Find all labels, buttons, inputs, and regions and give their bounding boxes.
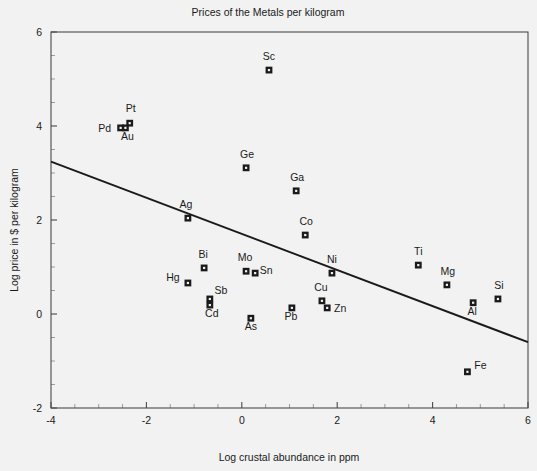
x-tick-label: 4 xyxy=(430,414,436,426)
data-point-label: Cd xyxy=(205,307,219,319)
data-point-label: Ti xyxy=(414,245,422,257)
chart-figure: Prices of the Metals per kilogram -4-202… xyxy=(0,0,537,471)
data-point-marker-center xyxy=(187,217,189,219)
x-axis-label: Log crustal abundance in ppm xyxy=(219,451,360,463)
data-point-label: Fe xyxy=(474,359,486,371)
data-point-marker-center xyxy=(187,282,189,284)
x-tick-label: 6 xyxy=(525,414,531,426)
data-point-marker-center xyxy=(446,284,448,286)
y-tick-label: 4 xyxy=(36,120,42,132)
y-tick-label: -2 xyxy=(33,402,42,414)
data-point-label: Au xyxy=(121,130,134,142)
data-point-label: Bi xyxy=(198,248,207,260)
data-point-marker-center xyxy=(254,272,256,274)
data-point-label: Zn xyxy=(334,302,346,314)
data-point-label: Pb xyxy=(284,310,297,322)
data-point-label: Ge xyxy=(240,148,254,160)
chart-title: Prices of the Metals per kilogram xyxy=(192,6,345,18)
data-point-marker-center xyxy=(209,304,211,306)
data-point-label: Al xyxy=(467,305,476,317)
data-point-label: Pd xyxy=(98,122,111,134)
scatter-plot-svg: Prices of the Metals per kilogram -4-202… xyxy=(0,0,537,471)
x-tick-label: 2 xyxy=(334,414,340,426)
data-point-marker-center xyxy=(209,298,211,300)
data-point-label: Mo xyxy=(238,251,253,263)
data-point-label: Ga xyxy=(290,171,304,183)
data-point-marker-center xyxy=(326,307,328,309)
y-tick-label: 0 xyxy=(36,308,42,320)
data-point-marker-center xyxy=(304,234,306,236)
data-point-marker-center xyxy=(203,267,205,269)
data-point-marker-center xyxy=(291,307,293,309)
data-point-marker-center xyxy=(295,190,297,192)
data-point-label: Ni xyxy=(327,253,337,265)
data-point-marker-center xyxy=(417,264,419,266)
data-point-label: Sc xyxy=(263,50,275,62)
data-point-marker-center xyxy=(268,69,270,71)
data-point-marker-center xyxy=(250,317,252,319)
y-tick-label: 6 xyxy=(36,26,42,38)
data-point-label: Ag xyxy=(179,198,192,210)
data-point-marker-center xyxy=(497,298,499,300)
x-tick-label: -4 xyxy=(46,414,55,426)
data-point-marker-center xyxy=(124,127,126,129)
data-point-marker-center xyxy=(245,167,247,169)
data-point-marker-center xyxy=(331,272,333,274)
data-point-label: Si xyxy=(494,279,503,291)
data-point-label: Sb xyxy=(214,284,227,296)
x-tick-label: -2 xyxy=(142,414,151,426)
x-tick-label: 0 xyxy=(239,414,245,426)
data-point-marker-center xyxy=(466,371,468,373)
data-point-label: Hg xyxy=(166,271,180,283)
y-tick-label: 2 xyxy=(36,214,42,226)
data-point-label: Mg xyxy=(441,265,456,277)
data-point-label: Sn xyxy=(260,264,273,276)
data-point-label: As xyxy=(245,320,257,332)
data-point-label: Co xyxy=(300,215,314,227)
data-point-label: Cu xyxy=(314,281,328,293)
data-point-marker-center xyxy=(129,122,131,124)
y-axis-label: Log price in $ per kilogram xyxy=(8,168,20,292)
data-point-marker-center xyxy=(472,302,474,304)
data-point-label: Pt xyxy=(126,102,136,114)
data-point-marker-center xyxy=(321,300,323,302)
data-point-marker-center xyxy=(245,270,247,272)
data-point-marker-center xyxy=(120,127,122,129)
